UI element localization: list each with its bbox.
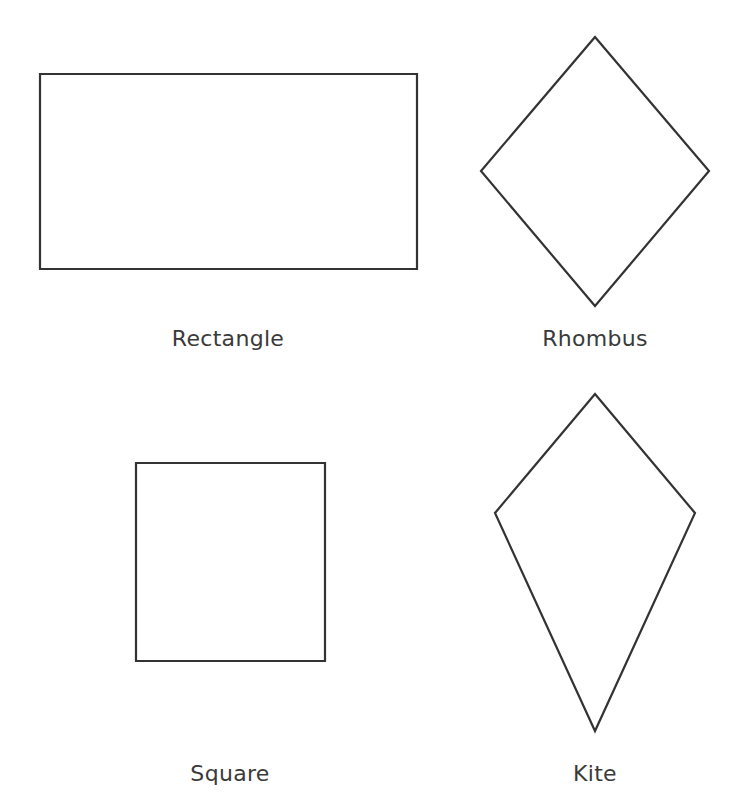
kite-label: Kite [573, 763, 617, 785]
square-shape [136, 463, 325, 661]
shapes-diagram [0, 0, 742, 796]
rhombus-label: Rhombus [542, 328, 648, 350]
square-label: Square [190, 763, 269, 785]
rectangle-shape [40, 74, 417, 269]
rectangle-label: Rectangle [172, 328, 284, 350]
rhombus-shape [481, 37, 709, 306]
kite-shape [495, 394, 695, 731]
